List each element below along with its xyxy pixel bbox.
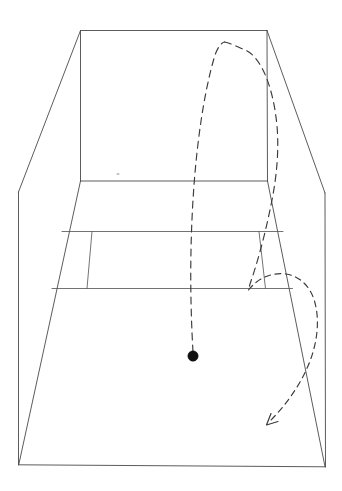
left-upper-diagonal <box>19 31 81 193</box>
incoming-trajectory-path <box>191 42 225 352</box>
ball-marker <box>188 351 198 361</box>
left-floor-diagonal <box>19 181 81 465</box>
apex-descent-path <box>225 42 278 290</box>
trajectory-group <box>188 42 318 425</box>
court-outline-group <box>19 31 326 468</box>
right-floor-diagonal <box>268 181 326 467</box>
right-upper-diagonal <box>267 31 325 194</box>
right-side-vertical-edge <box>325 193 326 467</box>
center-mark-speck <box>116 173 119 175</box>
return-loop-path <box>249 274 318 421</box>
back-wall-right-edge <box>267 31 268 182</box>
diagram-root <box>0 0 342 491</box>
left-service-box-divider <box>87 232 92 289</box>
near-baseline <box>19 465 326 467</box>
court-diagram-svg <box>0 0 342 491</box>
